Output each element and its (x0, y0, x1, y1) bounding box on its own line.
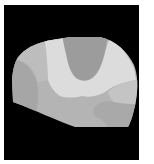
segmentation-image (0, 0, 154, 164)
lower-right-region (93, 101, 140, 135)
